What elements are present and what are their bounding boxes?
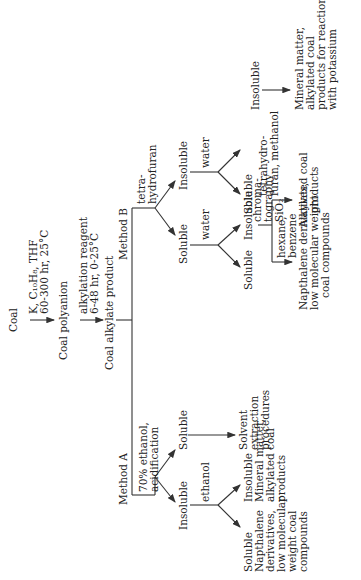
- final-product: Mineral matter, alkylated coal products …: [294, 0, 338, 110]
- eluent-2-product-line2: products: [309, 150, 320, 230]
- method-b-insoluble-water-soluble: Soluble: [243, 174, 254, 214]
- method-b-insoluble: Insoluble: [178, 141, 189, 190]
- method-a-ethanol-insoluble: Insoluble Mineral matter, alkylated coal…: [243, 419, 287, 502]
- method-b-treatment: tetra- hydrofuran: [136, 145, 158, 204]
- final-product-line4: with potassium: [327, 0, 338, 110]
- method-b-soluble-water-label: water: [200, 209, 211, 240]
- step2-reagents-line2: 6-48 hr, 0-25°C: [89, 217, 100, 314]
- eluent-1-product-line3: coal compounds: [320, 200, 331, 310]
- method-b-insoluble-water-label: water: [200, 137, 211, 168]
- step2-reagents: alkylation reagent 6-48 hr, 0-25°C: [78, 217, 100, 314]
- method-b-insoluble-water-insoluble: Insoluble: [250, 61, 261, 110]
- step1-reagents-line2: 60-300 hr, 25°C: [39, 230, 50, 314]
- method-a-treatment: 70% ethanol, acidification: [138, 422, 160, 492]
- method-a-insoluble: Insoluble: [178, 481, 189, 530]
- eluent-2-line2: furan, methanol: [269, 111, 280, 196]
- method-b-treatment-line2: hydrofuran: [147, 145, 158, 204]
- method-b-soluble-water-soluble: Soluble: [243, 250, 254, 290]
- ethanol-insoluble-line4: products: [276, 419, 287, 502]
- intermediate-node: Coal polyanion: [58, 281, 69, 360]
- method-b-label: Method B: [118, 208, 129, 260]
- method-a-ethanol-soluble: Soluble Napthalene derivatives, low mole…: [243, 497, 309, 572]
- eluent-2-product: Alkylated coal products: [298, 150, 320, 230]
- method-a-treatment-line2: acidification: [149, 422, 160, 492]
- flow-diagram: Coal K, C₁₀H₈, THF 60-300 hr, 25°C Coal …: [0, 0, 361, 580]
- eluent-hexane-benzene: hexane, benzene: [276, 214, 298, 258]
- method-b-soluble: Soluble: [178, 224, 189, 264]
- method-a-ethanol-label: ethanol: [200, 462, 211, 502]
- eluent-thf-methanol: tetrahydro- furan, methanol: [258, 111, 280, 196]
- product-node: Coal alkylate product: [104, 256, 115, 370]
- ethanol-soluble-line6: compounds: [298, 497, 309, 572]
- method-a-label: Method A: [118, 453, 129, 505]
- method-a-soluble: Soluble: [178, 410, 189, 450]
- step1-reagents: K, C₁₀H₈, THF 60-300 hr, 25°C: [28, 230, 50, 314]
- start-node-coal: Coal: [8, 308, 19, 332]
